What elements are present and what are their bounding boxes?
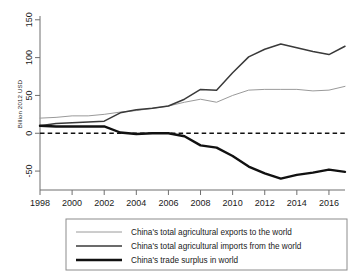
y-axis-ticks: -50050100150	[24, 12, 40, 177]
x-tick-label: 2000	[62, 198, 82, 208]
x-tick-label: 2014	[287, 198, 307, 208]
x-tick-label: 2002	[94, 198, 114, 208]
series-line-surplus	[40, 126, 345, 179]
chart-figure: Billion 2012 USD -50050100150 1998200020…	[0, 0, 352, 279]
chart-legend: China's total agricultural exports to th…	[66, 219, 347, 270]
x-tick-label: 2016	[319, 198, 339, 208]
x-axis-ticks: 1998200020022004200620082010201220142016	[30, 190, 339, 208]
x-tick-label: 2004	[126, 198, 146, 208]
y-tick-label: -50	[24, 165, 34, 178]
y-tick-label: 100	[24, 50, 34, 65]
series-line-imports	[40, 44, 345, 126]
x-tick-label: 2006	[158, 198, 178, 208]
legend-label-exports: China's total agricultural exports to th…	[131, 228, 292, 237]
y-axis-title-label: Billion 2012 USD	[16, 79, 23, 128]
x-tick-label: 2012	[255, 198, 275, 208]
legend-label-imports: China's total agricultural imports from …	[131, 242, 302, 251]
y-tick-label: 0	[24, 131, 34, 136]
y-axis-title: Billion 2012 USD	[16, 79, 23, 128]
x-tick-label: 2008	[191, 198, 211, 208]
y-tick-label: 50	[24, 90, 34, 100]
series-line-exports	[40, 86, 345, 118]
x-tick-label: 2010	[223, 198, 243, 208]
line-chart: Billion 2012 USD -50050100150 1998200020…	[0, 0, 352, 279]
legend-label-surplus: China's trade surplus in world	[131, 256, 239, 265]
y-tick-label: 150	[24, 12, 34, 27]
x-tick-label: 1998	[30, 198, 50, 208]
